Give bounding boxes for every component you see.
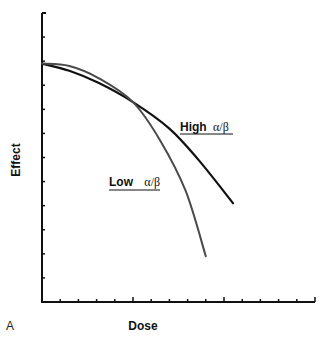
x-axis-label: Dose <box>128 319 158 333</box>
svg-text:High α/β: High α/β <box>180 120 229 134</box>
panel-label: A <box>6 319 14 333</box>
series-label-high: High α/β <box>180 120 233 134</box>
svg-text:Low α/β: Low α/β <box>109 175 160 189</box>
series-line-low <box>42 64 206 257</box>
series-label-low-greek: α/β <box>144 175 160 189</box>
dose-effect-chart: Effect Dose A High α/β Low α/β <box>0 0 321 351</box>
series-label-low-name: Low <box>109 175 134 189</box>
x-axis <box>41 297 315 302</box>
y-axis <box>42 13 46 302</box>
series-label-low: Low α/β <box>109 175 160 190</box>
series-label-high-greek: α/β <box>213 120 229 134</box>
y-axis-label: Effect <box>9 143 23 176</box>
series-label-high-name: High <box>180 120 207 134</box>
series-layer <box>42 64 233 257</box>
